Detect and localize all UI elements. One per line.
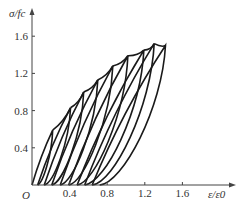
hysteresis-loop [92,46,165,186]
envelope-segment [84,80,98,92]
y-axis-title: σ/fc [9,7,26,19]
axis-ticks: 0.40.81.21.60.40.81.21.6 [14,30,190,199]
y-tick-label: 1.2 [14,67,28,79]
x-tick-label: 1.6 [176,187,190,199]
hysteresis-loop [32,130,53,185]
x-tick-label: 0.4 [63,187,77,199]
envelope-segment [154,44,165,47]
chart: 0.40.81.21.60.40.81.21.6 σ/fc ε/ε0 O [0,0,245,210]
x-axis-arrow-icon [229,183,236,188]
x-tick-label: 1.2 [138,187,152,199]
x-tick-label: 0.8 [100,187,114,199]
y-tick-label: 1.6 [14,30,28,42]
origin-label: O [22,189,30,201]
y-tick-label: 0.8 [14,105,28,117]
y-axis-arrow-icon [30,8,35,15]
x-axis-title: ε/ε0 [208,188,226,200]
hysteresis-loop [85,44,155,185]
hysteresis-loops [32,44,165,185]
envelope-segment [144,44,154,51]
y-tick-label: 0.4 [14,142,28,154]
envelope-segment [98,66,113,80]
